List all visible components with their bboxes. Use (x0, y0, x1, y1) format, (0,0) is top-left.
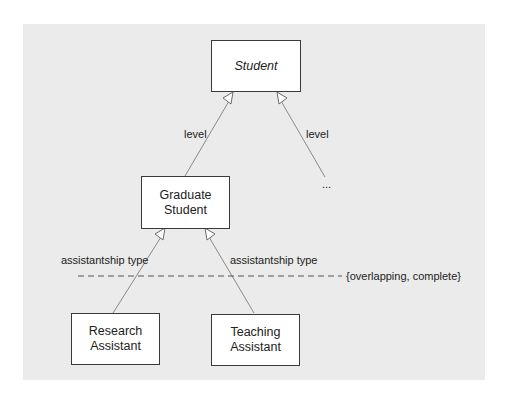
class-graduate-line2: Student (164, 203, 207, 218)
class-teaching-line2: Assistant (230, 340, 281, 355)
discriminator-level-left: level (184, 128, 207, 140)
arrowhead-icon (205, 228, 215, 240)
class-research-line1: Research (89, 324, 143, 339)
class-student: Student (211, 40, 301, 92)
class-teaching-line1: Teaching (230, 325, 280, 340)
discriminator-assistantship-right: assistantship type (230, 254, 317, 266)
generalization-line-research-graduate (113, 237, 161, 313)
constraint-label: {overlapping, complete} (346, 270, 461, 282)
class-research-line2: Assistant (90, 339, 141, 354)
class-research-assistant: Research Assistant (71, 313, 160, 365)
ellipsis-label: ... (322, 178, 331, 190)
arrowhead-icon (277, 92, 287, 104)
arrowhead-icon (223, 92, 233, 104)
class-student-label: Student (234, 59, 277, 74)
class-teaching-assistant: Teaching Assistant (211, 314, 300, 366)
class-graduate-line1: Graduate (159, 188, 211, 203)
generalization-line-teaching-graduate (209, 237, 254, 313)
class-graduate-student: Graduate Student (141, 176, 230, 229)
arrowhead-icon (155, 228, 165, 240)
discriminator-level-right: level (306, 128, 329, 140)
discriminator-assistantship-left: assistantship type (61, 254, 148, 266)
